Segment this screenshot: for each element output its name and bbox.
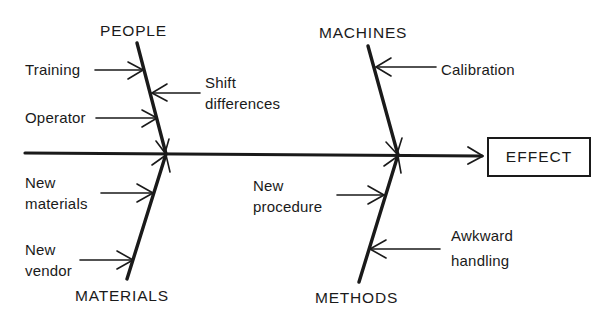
cause-label-new-vendor: New vendor — [25, 239, 72, 281]
category-label-materials: MATERIALS — [75, 287, 169, 305]
cause-line: New — [25, 239, 72, 260]
bone-methods — [359, 155, 398, 282]
cause-line: New — [25, 172, 88, 193]
category-label-machines: MACHINES — [319, 24, 407, 42]
category-label-people: PEOPLE — [100, 22, 167, 40]
cause-line: vendor — [25, 260, 72, 281]
cause-label-operator: Operator — [25, 107, 86, 128]
cause-line: Calibration — [441, 59, 515, 80]
cause-label-calibration: Calibration — [441, 59, 515, 80]
cause-label-training: Training — [25, 59, 80, 80]
effect-box: EFFECT — [487, 137, 591, 177]
spine-line — [25, 153, 482, 156]
cause-line: handling — [451, 250, 513, 271]
cause-line: Training — [25, 59, 80, 80]
cause-line: Shift — [205, 72, 280, 93]
cause-line: procedure — [253, 196, 322, 217]
cause-line: materials — [25, 193, 88, 214]
cause-label-awkward-handling: Awkward handling — [451, 225, 513, 271]
cause-line: New — [253, 175, 322, 196]
cause-line: differences — [205, 93, 280, 114]
cause-label-new-materials: New materials — [25, 172, 88, 214]
effect-label: EFFECT — [506, 148, 572, 166]
cause-label-new-procedure: New procedure — [253, 175, 322, 217]
cause-line: Operator — [25, 107, 86, 128]
category-label-methods: METHODS — [315, 289, 398, 307]
cause-line: Awkward — [451, 225, 513, 246]
cause-label-shift-differences: Shift differences — [205, 72, 280, 114]
